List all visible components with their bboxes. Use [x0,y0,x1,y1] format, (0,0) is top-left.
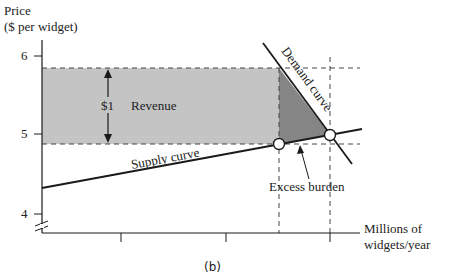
y-axis-label-line2: ($ per widget) [4,20,78,33]
equilibrium-point-taxed [274,139,285,150]
excess-burden-pointer [301,150,309,179]
panel-label: (b) [204,261,221,273]
tax-wedge-label: $1 [101,99,114,112]
x-axis-label-line1: Millions of [364,222,422,235]
y-axis-label-line1: Price [4,4,31,17]
revenue-label: Revenue [131,99,176,112]
supply-curve-label: Supply curve [130,145,201,172]
y-tick-label-5: 5 [21,127,28,140]
y-tick-label-4: 4 [21,207,28,220]
arrow-pointer-icon [297,145,304,154]
x-axis-label-line2: widgets/year [364,238,430,251]
y-tick-label-6: 6 [21,49,28,62]
excess-burden-label: Excess burden [269,180,344,193]
equilibrium-point-untaxed [325,130,336,141]
